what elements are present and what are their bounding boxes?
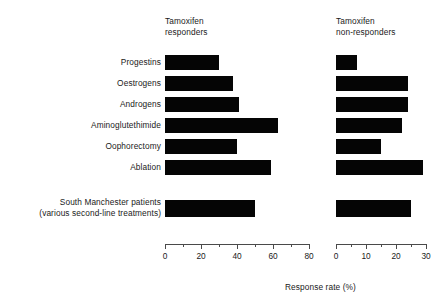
- x-tick-label: 0: [163, 251, 168, 261]
- x-tick-minor: [291, 244, 292, 247]
- bar-responders-progestins: [165, 55, 219, 70]
- x-tick-label: 20: [196, 251, 205, 261]
- bar-responders-ablation: [165, 160, 271, 175]
- x-tick-label: 40: [232, 251, 241, 261]
- bar-non-responders-oophorectomy: [336, 139, 381, 154]
- x-tick-minor: [183, 244, 184, 247]
- x-tick-label: 60: [268, 251, 277, 261]
- bar-responders-south-manchester: [165, 200, 255, 217]
- x-tick-major: [426, 244, 427, 249]
- bar-non-responders-south-manchester: [336, 200, 411, 217]
- bar-non-responders-progestins: [336, 55, 357, 70]
- category-label-aminoglutethimide: Aminoglutethimide: [3, 120, 161, 130]
- x-tick-major: [309, 244, 310, 249]
- category-label-androgens: Androgens: [3, 99, 161, 109]
- bar-responders-oestrogens: [165, 76, 233, 91]
- x-tick-major: [396, 244, 397, 249]
- x-tick-label: 0: [334, 251, 339, 261]
- bar-responders-androgens: [165, 97, 239, 112]
- x-tick-label: 10: [361, 251, 370, 261]
- bar-responders-oophorectomy: [165, 139, 237, 154]
- x-tick-label: 30: [421, 251, 430, 261]
- bar-non-responders-aminoglutethimide: [336, 118, 402, 133]
- bar-non-responders-oestrogens: [336, 76, 408, 91]
- category-label-south-manchester-patients: South Manchester patients (various secon…: [3, 197, 161, 219]
- x-tick-label: 20: [391, 251, 400, 261]
- x-tick-minor: [381, 244, 382, 247]
- x-tick-minor: [219, 244, 220, 247]
- category-label-progestins: Progestins: [3, 57, 161, 67]
- x-tick-minor: [255, 244, 256, 247]
- x-tick-major: [336, 244, 337, 249]
- category-label-ablation: Ablation: [3, 162, 161, 172]
- x-tick-major: [237, 244, 238, 249]
- category-label-column: Progestins Oestrogens Androgens Aminoglu…: [0, 0, 161, 306]
- x-tick-minor: [351, 244, 352, 247]
- x-tick-major: [201, 244, 202, 249]
- x-tick-label: 80: [304, 251, 313, 261]
- bar-non-responders-androgens: [336, 97, 408, 112]
- category-label-oestrogens: Oestrogens: [3, 78, 161, 88]
- x-tick-major: [165, 244, 166, 249]
- category-label-oophorectomy: Oophorectomy: [3, 141, 161, 151]
- bar-responders-aminoglutethimide: [165, 118, 278, 133]
- bar-non-responders-ablation: [336, 160, 423, 175]
- x-tick-minor: [411, 244, 412, 247]
- x-axis-responders: 020406080: [165, 244, 315, 266]
- x-axis-title: Response rate (%): [285, 282, 356, 292]
- x-axis-non-responders: 0102030: [336, 244, 432, 266]
- bar-chart-figure: Tamoxifen responders Tamoxifen non-respo…: [0, 0, 441, 306]
- x-tick-major: [273, 244, 274, 249]
- x-tick-major: [366, 244, 367, 249]
